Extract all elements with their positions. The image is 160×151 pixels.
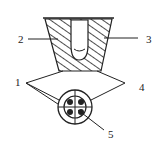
- cross-section-body: [43, 18, 114, 71]
- label-1: 1: [15, 77, 21, 88]
- label-3: 3: [146, 34, 152, 45]
- label-5: 5: [108, 129, 114, 140]
- diagram-canvas: [0, 0, 160, 151]
- cable-cross-section: [58, 90, 92, 124]
- label-2: 2: [18, 34, 24, 45]
- label-4: 4: [139, 82, 145, 93]
